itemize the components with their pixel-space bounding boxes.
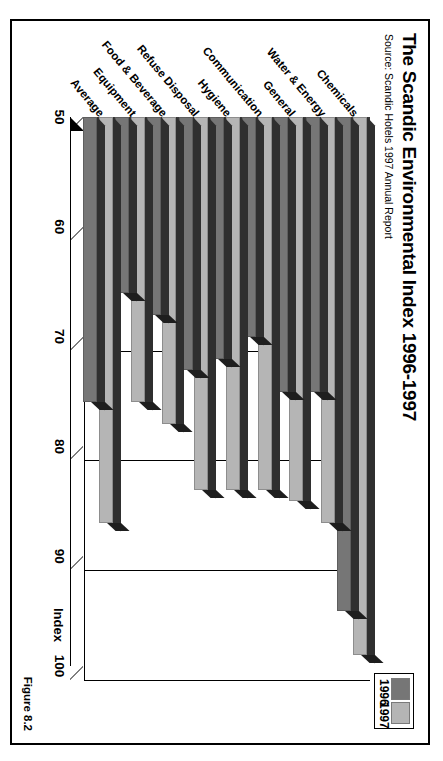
figure-canvas: The Scandic Environmental Index 1996-199…: [12, 21, 428, 743]
figure-page: The Scandic Environmental Index 1996-199…: [0, 0, 443, 761]
bar-top-face: [288, 117, 296, 400]
bar-front-face: [83, 117, 97, 402]
value-axis-line-front: [70, 117, 71, 666]
bar-top-face: [256, 117, 264, 345]
legend-swatch-1997: [391, 702, 410, 724]
bar-top-face: [303, 117, 311, 510]
axis-title: Index: [51, 608, 66, 642]
legend-label-1996: 1996: [377, 679, 390, 700]
chart-legend: 1996 1997: [374, 673, 414, 729]
source-note: Source: Scandic Hotels 1997 Annual Repor…: [383, 34, 395, 239]
bar-side-face: [297, 501, 320, 509]
bar-top-face: [240, 117, 248, 499]
figure-number-label: Figure 8.2: [22, 677, 34, 731]
figure-frame: The Scandic Environmental Index 1996-199…: [10, 19, 430, 745]
bar-top-face: [352, 117, 360, 620]
axis-floor-3d: [70, 117, 84, 680]
plot-area: ChemicalsWater & EnergyGeneralCommunicat…: [70, 117, 370, 680]
tick-label-70: 70: [52, 320, 67, 354]
tick-label-50: 50: [52, 100, 67, 134]
tick-label-80: 80: [52, 429, 67, 463]
bar-top-face: [335, 117, 343, 532]
bar-top-face: [113, 117, 121, 532]
bar-top-face: [176, 117, 184, 433]
bar-side-face: [202, 490, 225, 498]
tick-label-100: 100: [52, 649, 67, 683]
legend-swatches: [391, 678, 410, 724]
bar-side-face: [361, 655, 384, 663]
bar-top-face: [320, 117, 328, 400]
legend-label-1997: 1997: [377, 702, 390, 723]
bar-1996-average: [83, 117, 97, 402]
tick-label-90: 90: [52, 539, 67, 573]
bar-side-face: [139, 402, 162, 410]
gridline-100: [84, 680, 370, 681]
bar-top-face: [161, 117, 169, 323]
bar-top-face: [272, 117, 280, 499]
bar-top-face: [367, 117, 375, 664]
page-title: The Scandic Environmental Index 1996-199…: [398, 33, 420, 421]
bar-top-face: [145, 117, 153, 411]
legend-swatch-1996: [391, 678, 410, 700]
rotated-figure-wrapper: The Scandic Environmental Index 1996-199…: [12, 21, 428, 743]
bar-top-face: [193, 117, 201, 378]
bar-side-face: [234, 490, 257, 498]
gridline-90: [84, 570, 370, 571]
bar-top-face: [208, 117, 216, 499]
tick-label-60: 60: [52, 210, 67, 244]
bar-top-face: [224, 117, 232, 367]
bar-side-face: [107, 523, 130, 531]
legend-labels: 1996 1997: [377, 679, 390, 723]
bar-side-face: [170, 424, 193, 432]
bar-top-face: [129, 117, 137, 301]
bar-side-face: [266, 490, 289, 498]
bar-top-face: [97, 117, 105, 411]
